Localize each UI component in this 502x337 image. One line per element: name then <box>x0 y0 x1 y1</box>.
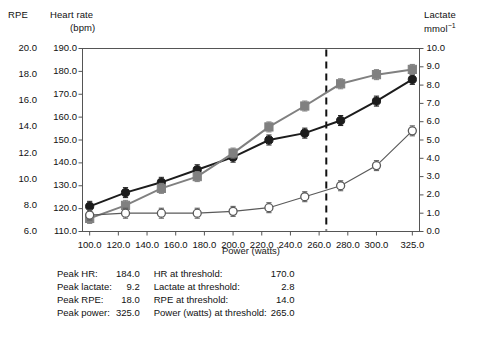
data-point <box>265 123 273 131</box>
summary-threshold-value: 2.8 <box>271 281 295 294</box>
summary-peak-value: 18.0 <box>116 294 154 307</box>
data-point <box>265 136 273 144</box>
summary-row: Peak RPE:18.0RPE at threshold:14.0 <box>57 294 294 307</box>
summary-table-grid: Peak HR:184.0HR at threshold:170.0Peak l… <box>57 268 294 320</box>
summary-row: Peak power:325.0Power (watts) at thresho… <box>57 307 294 320</box>
summary-threshold-label: RPE at threshold: <box>154 294 271 307</box>
summary-threshold-value: 265.0 <box>271 307 295 320</box>
data-point <box>121 189 129 197</box>
data-point <box>337 116 345 124</box>
summary-threshold-label: HR at threshold: <box>154 268 271 281</box>
series-rpe <box>86 64 417 223</box>
data-point <box>301 102 309 110</box>
data-point <box>157 209 165 217</box>
summary-threshold-value: 170.0 <box>271 268 295 281</box>
data-point <box>337 80 345 88</box>
summary-peak-label: Peak RPE: <box>57 294 116 307</box>
summary-peak-label: Peak lactate: <box>57 281 116 294</box>
data-point <box>122 209 130 217</box>
summary-peak-value: 184.0 <box>116 268 154 281</box>
data-point <box>86 202 94 210</box>
summary-peak-label: Peak HR: <box>57 268 116 281</box>
summary-peak-value: 325.0 <box>116 307 154 320</box>
summary-row: Peak HR:184.0HR at threshold:170.0 <box>57 268 294 281</box>
summary-peak-value: 9.2 <box>116 281 154 294</box>
data-point <box>372 162 380 170</box>
data-point <box>408 65 416 73</box>
data-point <box>193 173 201 181</box>
summary-peak-label: Peak power: <box>57 307 116 320</box>
data-point <box>301 129 309 137</box>
series-hr <box>86 74 417 211</box>
data-point <box>408 127 416 135</box>
data-series-layer <box>86 64 417 223</box>
data-point <box>265 204 273 212</box>
data-point <box>301 193 309 201</box>
data-point <box>86 211 94 219</box>
x-axis-title: Power (watts) <box>0 245 502 256</box>
summary-threshold-label: Power (watts) at threshold: <box>154 307 271 320</box>
data-point <box>372 71 380 79</box>
summary-threshold-label: Lactate at threshold: <box>154 281 271 294</box>
data-point <box>229 149 237 157</box>
data-point <box>337 182 345 190</box>
summary-threshold-value: 14.0 <box>271 294 295 307</box>
data-point <box>372 97 380 105</box>
data-point <box>157 184 165 192</box>
figure-container: RPE Heart rate (bpm) Lactate mmol−1 190.… <box>0 0 502 337</box>
data-point <box>408 75 416 83</box>
data-point <box>229 207 237 215</box>
summary-row: Peak lactate:9.2Lactate at threshold:2.8 <box>57 281 294 294</box>
summary-table: Peak HR:184.0HR at threshold:170.0Peak l… <box>57 268 294 320</box>
data-point <box>193 209 201 217</box>
